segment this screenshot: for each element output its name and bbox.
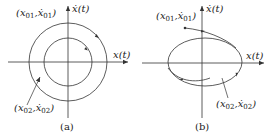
x-axis-label: x(t): [246, 50, 264, 61]
inner-trajectory: [168, 68, 210, 81]
initial-point-2-label: (x02,ẋ02): [216, 98, 256, 111]
x-axis-label: x(t): [113, 49, 131, 60]
panel-b: (x01,ẋ01) ẋ(t) x(t) (x02,ẋ02) (b): [142, 3, 264, 132]
phase-portrait-figure: (x01,ẋ01) ẋ(t) x(t) (x02,ẋ02) (a) (x01,ẋ…: [0, 0, 276, 140]
panel-a: (x01,ẋ01) ẋ(t) x(t) (x02,ẋ02) (a): [8, 3, 131, 132]
caption-b: (b): [195, 121, 209, 132]
initial-point-1-marker: [184, 27, 187, 30]
limit-cycle: [168, 38, 242, 86]
initial-point-2-label: (x02,ẋ02): [14, 102, 54, 115]
pointer-line: [27, 77, 40, 105]
initial-point-1-label: (x01,ẋ01): [156, 10, 196, 23]
initial-point-1-label: (x01,ẋ01): [16, 7, 56, 20]
caption-a: (a): [60, 121, 74, 132]
y-axis-label: ẋ(t): [206, 3, 224, 14]
y-axis-label: ẋ(t): [72, 3, 90, 14]
